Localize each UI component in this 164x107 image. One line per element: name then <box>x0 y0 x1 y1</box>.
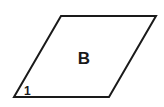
angle-label-1: 1 <box>24 84 31 98</box>
parallelogram-diagram: B 1 <box>0 0 164 107</box>
diagram-canvas: B 1 <box>0 0 164 107</box>
shape-label-b: B <box>78 49 90 68</box>
